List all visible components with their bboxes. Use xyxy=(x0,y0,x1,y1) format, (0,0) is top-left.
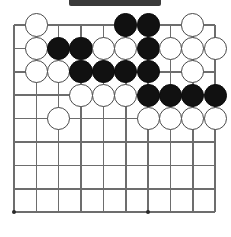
white-stone[interactable] xyxy=(47,60,70,83)
grid-line-horizontal-5 xyxy=(14,141,215,143)
black-stone[interactable] xyxy=(137,13,160,36)
white-stone[interactable] xyxy=(204,37,227,60)
white-stone[interactable] xyxy=(159,37,182,60)
white-stone[interactable] xyxy=(25,37,48,60)
black-stone[interactable] xyxy=(69,37,92,60)
star-point-1 xyxy=(146,210,150,214)
black-stone[interactable] xyxy=(47,37,70,60)
black-stone[interactable] xyxy=(204,84,227,107)
black-stone[interactable] xyxy=(137,37,160,60)
black-stone[interactable] xyxy=(181,84,204,107)
white-stone[interactable] xyxy=(181,107,204,130)
white-stone[interactable] xyxy=(92,84,115,107)
black-stone[interactable] xyxy=(92,60,115,83)
white-stone[interactable] xyxy=(159,107,182,130)
star-point-0 xyxy=(12,210,16,214)
black-stone[interactable] xyxy=(114,13,137,36)
white-stone[interactable] xyxy=(181,37,204,60)
white-stone[interactable] xyxy=(181,13,204,36)
white-stone[interactable] xyxy=(114,84,137,107)
white-stone[interactable] xyxy=(204,107,227,130)
black-stone[interactable] xyxy=(69,60,92,83)
white-stone[interactable] xyxy=(181,60,204,83)
white-stone[interactable] xyxy=(114,37,137,60)
white-stone[interactable] xyxy=(92,37,115,60)
black-stone[interactable] xyxy=(137,60,160,83)
white-stone[interactable] xyxy=(137,107,160,130)
white-stone[interactable] xyxy=(47,107,70,130)
black-stone[interactable] xyxy=(114,60,137,83)
grid-line-vertical-0 xyxy=(13,25,15,212)
white-stone[interactable] xyxy=(69,84,92,107)
white-stone[interactable] xyxy=(25,60,48,83)
black-stone[interactable] xyxy=(137,84,160,107)
grid-line-horizontal-8 xyxy=(14,211,215,213)
go-board-grid[interactable] xyxy=(0,0,231,237)
go-board-figure xyxy=(0,0,231,237)
white-stone[interactable] xyxy=(25,13,48,36)
grid-line-horizontal-7 xyxy=(14,188,215,190)
grid-line-horizontal-6 xyxy=(14,165,215,167)
black-stone[interactable] xyxy=(159,84,182,107)
